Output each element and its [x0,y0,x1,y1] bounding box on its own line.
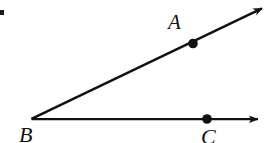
point-c-dot [202,114,212,124]
ray-BA-group [32,8,263,118]
point-a-label: A [168,12,181,33]
ray-BA [32,8,263,118]
geometry-figure: A B C [0,0,278,143]
point-b-label: B [19,124,32,143]
point-a-dot [188,39,198,49]
scan-artifact-mark [0,10,4,15]
point-c-label: C [201,126,216,143]
angle-diagram-canvas [0,0,278,143]
